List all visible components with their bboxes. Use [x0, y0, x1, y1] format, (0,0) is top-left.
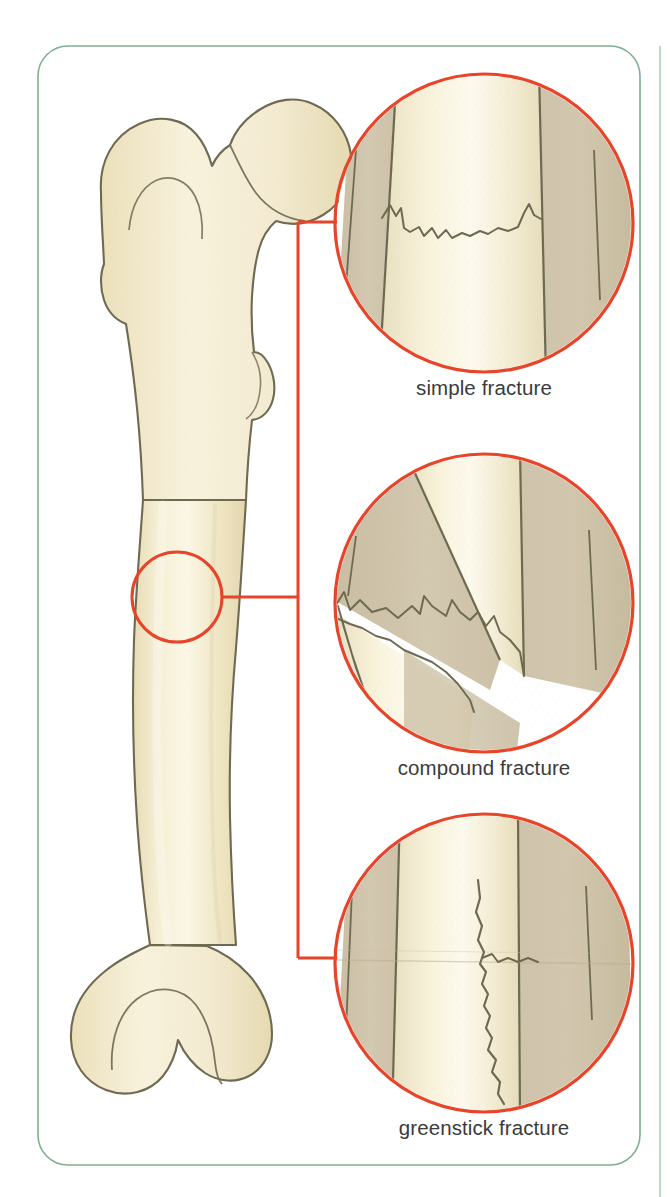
detail-circle-greenstick-fracture	[330, 809, 640, 1119]
detail-circle-simple-fracture	[330, 69, 640, 379]
caption-compound-fracture: compound fracture	[398, 756, 571, 780]
femur-illustration	[71, 99, 352, 1093]
figure-root: simple fracture compound fracture greens…	[0, 0, 670, 1197]
caption-greenstick-fracture: greenstick fracture	[399, 1116, 570, 1140]
caption-simple-fracture: simple fracture	[416, 376, 552, 400]
detail-circle-compound-fracture	[330, 449, 640, 759]
fracture-figure-svg	[0, 0, 670, 1197]
